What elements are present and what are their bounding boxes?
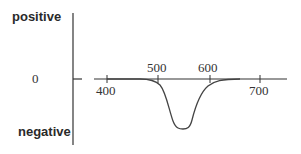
signal-curve [107, 79, 240, 129]
plot-area [0, 0, 301, 154]
